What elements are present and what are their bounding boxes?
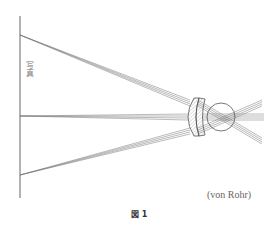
optical-diagram <box>0 0 276 237</box>
lens <box>188 98 205 136</box>
figure-caption: 図 1 <box>131 208 147 219</box>
ray-bundle-top <box>20 35 262 144</box>
ray-bundle-bottom <box>20 100 262 175</box>
credit-text: (von Rohr) <box>207 189 251 200</box>
eye-circle <box>207 103 235 131</box>
photo-label: 写真 <box>23 61 34 77</box>
